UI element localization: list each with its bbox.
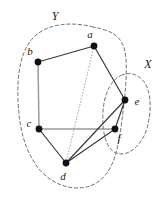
vertex-b [35,59,42,66]
edge-a-e [94,46,125,100]
edge-b-c [38,62,39,129]
graph-figure: YXabcdef [0,0,164,203]
vertex-c [36,126,43,133]
vertex-e [122,97,129,104]
region-boundary-Y [18,24,126,188]
region-label-Y: Y [52,9,60,23]
vertex-a [91,43,98,50]
region-boundary-X [103,74,150,154]
labels-layer: YXabcdef [27,9,153,182]
vertex-d [63,160,70,167]
vertex-label-d: d [60,170,66,182]
edges-layer [38,46,125,163]
vertex-label-c: c [27,117,32,129]
vertex-label-b: b [27,45,33,57]
region-label-X: X [143,57,152,71]
vertices-layer [35,43,129,167]
edge-e-f [115,100,125,129]
vertex-label-f: f [117,132,122,144]
graph-canvas: YXabcdef [0,0,164,203]
edge-a-d [66,46,94,163]
edge-c-d [39,129,66,163]
vertex-label-a: a [87,28,93,40]
edge-a-b [38,46,94,62]
vertex-label-e: e [135,95,140,107]
